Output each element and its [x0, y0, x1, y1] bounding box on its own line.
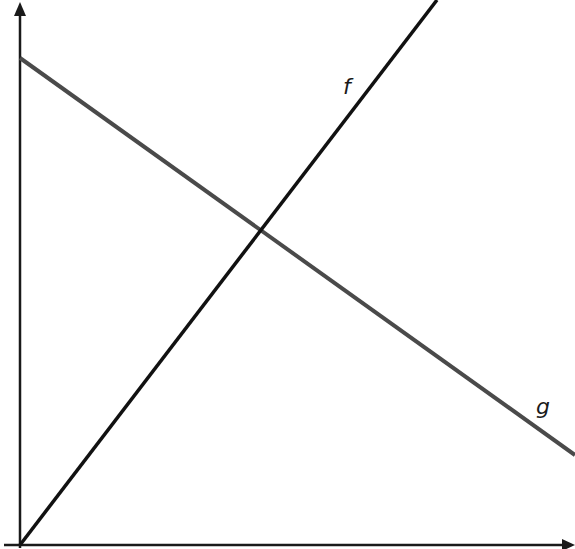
graph-canvas	[0, 0, 575, 549]
x-axis	[4, 539, 575, 549]
x-axis-arrow-icon	[562, 539, 575, 549]
y-axis	[14, 2, 26, 548]
y-axis-arrow-icon	[14, 2, 26, 16]
line-f-label: f	[343, 76, 351, 98]
line-g-label: g	[536, 396, 550, 418]
line-f	[20, 0, 437, 545]
line-g	[20, 58, 575, 455]
